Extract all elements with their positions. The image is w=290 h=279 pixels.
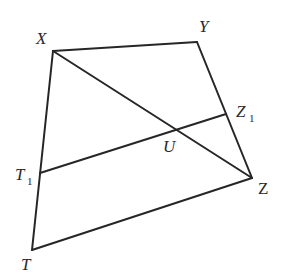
segment-xy xyxy=(53,42,197,51)
segment-zt xyxy=(32,178,252,250)
segment-tx xyxy=(32,51,53,250)
label-y: Y xyxy=(199,17,210,36)
label-z1-subscript: 1 xyxy=(249,112,255,124)
label-z: Z xyxy=(258,179,268,198)
label-t1: T 1 xyxy=(15,165,33,187)
label-z1-main: Z xyxy=(236,102,246,121)
label-t1-main: T xyxy=(15,165,26,184)
label-u: U xyxy=(163,137,177,156)
label-t1-subscript: 1 xyxy=(27,175,33,187)
label-x: X xyxy=(35,29,47,48)
label-t: T xyxy=(21,255,32,274)
geometry-diagram: X Y Z T U T 1 Z 1 xyxy=(0,0,290,279)
label-z1: Z 1 xyxy=(236,102,255,124)
